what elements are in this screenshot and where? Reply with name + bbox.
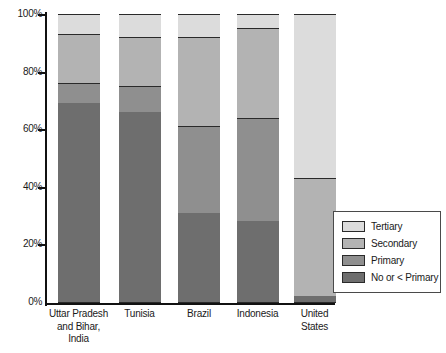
- legend-label-no-or-less-primary: No or < Primary: [371, 272, 438, 283]
- bar-tunisia: [119, 15, 161, 303]
- bar-segment-primary: [58, 83, 100, 103]
- category-label-line: and Bihar,: [31, 321, 127, 334]
- category-label-line: India: [31, 333, 127, 346]
- bar-segment-secondary: [178, 37, 220, 126]
- stacked-bar-chart: 100% 80% 60% 40% 20% 0% Uttar Pradeshand…: [0, 0, 446, 353]
- bar-united-states: [294, 15, 336, 303]
- category-label-united-states: UnitedStates: [267, 308, 363, 333]
- legend-label-secondary: Secondary: [371, 238, 417, 249]
- bar-segment-primary: [119, 86, 161, 112]
- bar-segment-tertiary: [119, 14, 161, 37]
- bar-segment-primary: [237, 118, 279, 222]
- bar-segment-no-or-primary: [119, 112, 161, 302]
- bar-segment-no-or-primary: [178, 213, 220, 302]
- bar-segment-primary: [178, 126, 220, 212]
- legend-swatch-secondary: [342, 238, 365, 249]
- y-tick-label: 60%: [23, 123, 42, 135]
- bar-segment-secondary: [119, 37, 161, 86]
- bar-segment-secondary: [237, 28, 279, 117]
- category-label-line: United: [267, 308, 363, 321]
- x-axis-line: [45, 303, 335, 305]
- category-label-line: States: [267, 321, 363, 334]
- bar-segment-tertiary: [178, 14, 220, 37]
- bar-indonesia: [237, 15, 279, 303]
- bar-segment-secondary: [294, 178, 336, 296]
- bar-segment-tertiary: [237, 14, 279, 28]
- bar-uttar-pradesh-and-bihar-india: [58, 15, 100, 303]
- legend-swatch-no-or-less-primary: [342, 272, 365, 283]
- chart-legend: Tertiary Secondary Primary No or < Prima…: [333, 211, 441, 293]
- legend-item-secondary: Secondary: [342, 236, 432, 251]
- legend-label-primary: Primary: [371, 255, 404, 266]
- bar-brazil: [178, 15, 220, 303]
- y-tick-label: 0%: [28, 296, 42, 308]
- legend-item-tertiary: Tertiary: [342, 219, 432, 234]
- bar-segment-no-or-primary: [237, 221, 279, 302]
- y-tick-label: 100%: [18, 8, 42, 20]
- bar-segment-tertiary: [294, 14, 336, 178]
- bar-segment-no-or-primary: [294, 296, 336, 302]
- legend-item-primary: Primary: [342, 253, 432, 268]
- bar-segment-tertiary: [58, 14, 100, 34]
- y-tick-label: 20%: [23, 238, 42, 250]
- plot-area: [46, 15, 335, 303]
- legend-swatch-primary: [342, 255, 365, 266]
- legend-label-tertiary: Tertiary: [371, 221, 402, 232]
- y-tick-label: 40%: [23, 181, 42, 193]
- y-tick-label: 80%: [23, 66, 42, 78]
- legend-item-no-or-less-primary: No or < Primary: [342, 270, 432, 285]
- bar-segment-secondary: [58, 34, 100, 83]
- bar-segment-no-or-primary: [58, 103, 100, 302]
- legend-swatch-tertiary: [342, 221, 365, 232]
